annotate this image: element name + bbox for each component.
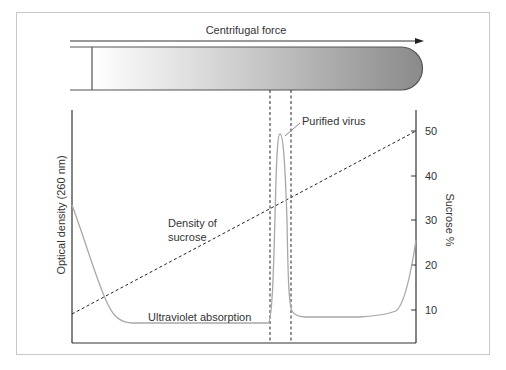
right-axis-ticks bbox=[411, 131, 416, 310]
tick-label-30: 30 bbox=[425, 214, 437, 226]
density-label-line1: Density of bbox=[168, 217, 218, 229]
tick-label-50: 50 bbox=[425, 125, 437, 137]
purified-virus-label: Purified virus bbox=[302, 115, 366, 127]
right-axis-label: Sucrose % bbox=[444, 193, 456, 246]
purified-virus-leader bbox=[285, 123, 300, 136]
centrifuge-tube bbox=[70, 47, 423, 90]
tick-label-10: 10 bbox=[425, 304, 437, 316]
uv-absorption-curve bbox=[72, 134, 416, 323]
centrifugal-force-arrow bbox=[70, 38, 424, 44]
centrifugal-force-label: Centrifugal force bbox=[206, 24, 287, 36]
density-label-line2: sucrose bbox=[168, 231, 207, 243]
sucrose-gradient-diagram: Centrifugal force 50 40 30 20 10 Optical… bbox=[0, 0, 506, 370]
uv-absorption-label: Ultraviolet absorption bbox=[148, 311, 251, 323]
tick-label-40: 40 bbox=[425, 170, 437, 182]
sucrose-density-line bbox=[72, 131, 416, 314]
tick-label-20: 20 bbox=[425, 259, 437, 271]
left-axis-label: Optical density (260 nm) bbox=[55, 155, 67, 274]
plot-axes bbox=[72, 110, 416, 343]
virus-band-boundaries bbox=[270, 90, 291, 343]
